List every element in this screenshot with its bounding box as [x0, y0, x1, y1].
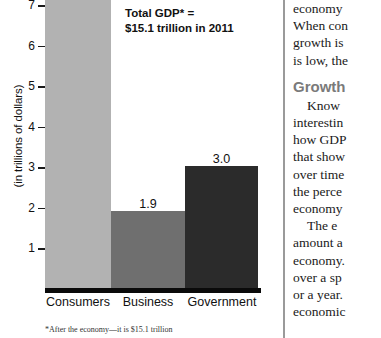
column-divider-rule — [283, 0, 285, 338]
plot-area: 7 6 5 4 3 2 1 — [45, 0, 283, 293]
y-tick-label-1: 1 — [24, 242, 35, 254]
text-line: economy. — [293, 252, 381, 269]
x-axis-baseline — [45, 288, 261, 293]
text-line: interestin — [293, 114, 381, 131]
y-tick-label-6: 6 — [24, 40, 35, 52]
body-text-column: economy When con growth is is low, the G… — [293, 0, 381, 338]
callout-line-2: $15.1 trillion in 2011 — [125, 21, 275, 36]
y-axis-title: (in trillions of dollars) — [12, 36, 24, 236]
textbook-page-fragment: (in trillions of dollars) 7 6 5 4 3 — [0, 0, 381, 338]
callout-line-1: Total GDP* = — [125, 6, 275, 21]
paragraph-1: Know interestin how GDP that show over t… — [293, 97, 381, 217]
text-line: When con — [293, 17, 381, 34]
paragraph-continued: economy When con growth is is low, the — [293, 0, 381, 69]
text-line: growth is — [293, 34, 381, 51]
y-tick-label-7: 7 — [24, 0, 35, 11]
text-line: economic — [293, 303, 381, 320]
category-labels: Consumers Business Government — [45, 295, 261, 311]
y-tick-label-5: 5 — [24, 80, 35, 92]
text-line: The e — [293, 217, 381, 234]
bar-value-government: 3.0 — [185, 152, 258, 166]
y-tick-label-2: 2 — [24, 202, 35, 214]
text-line: the perce — [293, 183, 381, 200]
y-tick-label-4: 4 — [24, 121, 35, 133]
text-line: amount a — [293, 234, 381, 251]
bar-business — [111, 211, 185, 288]
paragraph-2: The e amount a economy. over a sp or a y… — [293, 217, 381, 320]
section-heading: Growth — [293, 78, 381, 95]
category-label-business: Business — [111, 295, 185, 309]
text-line: that show — [293, 148, 381, 165]
chart-footnote: *After the economy—it is $15.1 trillion — [45, 325, 277, 335]
text-line: economy — [293, 200, 381, 217]
y-tick-label-3: 3 — [24, 161, 35, 173]
total-gdp-callout: Total GDP* = $15.1 trillion in 2011 — [125, 6, 275, 35]
text-line: Know — [293, 97, 381, 114]
text-line: how GDP — [293, 131, 381, 148]
text-line: or a year. — [293, 286, 381, 303]
category-label-government: Government — [181, 295, 263, 309]
gdp-bar-chart-figure: (in trillions of dollars) 7 6 5 4 3 — [0, 0, 283, 338]
bar-value-business: 1.9 — [111, 197, 185, 211]
bar-government — [185, 166, 258, 288]
text-line: over a sp — [293, 269, 381, 286]
text-line: economy — [293, 0, 381, 17]
text-line: over time — [293, 166, 381, 183]
bar-consumers — [45, 0, 111, 288]
text-line: is low, the — [293, 52, 381, 69]
category-label-consumers: Consumers — [39, 295, 117, 309]
